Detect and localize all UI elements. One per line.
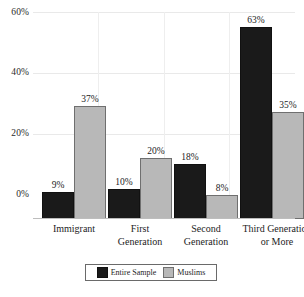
chart-legend: Entire Sample Muslims [85,264,217,281]
x-axis-category-third-generation-or-more: Third Generation or More [228,222,304,248]
bar-value-label: 10% [108,177,140,187]
legend-label: Entire Sample [111,268,157,277]
x-axis-baseline [33,218,295,219]
bar-value-label: 20% [140,146,172,156]
y-axis-tick-label: 60% [0,7,29,17]
plot-area: 9% 37% 10% 20% 18% 8% 63% 35% [33,12,295,219]
bar-value-label: 37% [74,94,106,104]
legend-label: Muslims [177,268,205,277]
y-axis-tick-label: 0% [0,189,29,199]
y-axis-tick-label: 20% [0,128,29,138]
legend-entry-muslims[interactable]: Muslims [163,267,205,278]
bar-value-label: 63% [240,15,272,25]
bar-entire-sample-immigrant[interactable] [42,192,74,219]
bar-muslims-first-generation[interactable] [140,158,172,219]
bar-value-label: 8% [206,183,238,193]
bar-chart: 60% 40% 20% 0% 9% 37% 10% 20% 18% 8% 63% [0,0,304,297]
bar-muslims-third-generation-or-more[interactable] [272,112,304,219]
y-axis-tick-label: 40% [0,67,29,77]
category-line: Third Generation [228,222,304,235]
legend-swatch-icon [97,267,108,278]
legend-entry-entire-sample[interactable]: Entire Sample [97,267,157,278]
x-axis: Immigrant First Generation Second Genera… [33,222,295,256]
bar-value-label: 9% [42,180,74,190]
bar-muslims-immigrant[interactable] [74,106,106,219]
bar-muslims-second-generation[interactable] [206,195,238,219]
category-line: or More [228,235,304,248]
bar-entire-sample-third-generation-or-more[interactable] [240,27,272,219]
bar-value-label: 18% [174,152,206,162]
bar-entire-sample-first-generation[interactable] [108,189,140,219]
bar-entire-sample-second-generation[interactable] [174,164,206,219]
y-axis: 60% 40% 20% 0% [0,12,29,219]
legend-swatch-icon [163,267,174,278]
bar-value-label: 35% [272,100,304,110]
